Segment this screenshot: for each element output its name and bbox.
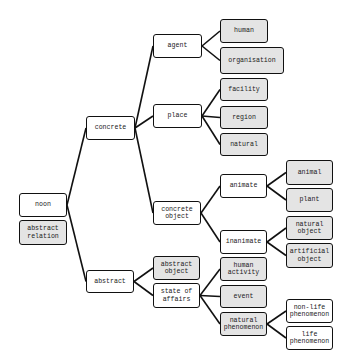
- edge-agent-organisation: [202, 46, 220, 61]
- node-facility: facility: [220, 78, 268, 101]
- node-animate: animate: [220, 174, 267, 198]
- node-life-phenomenon: life phenomenon: [286, 326, 333, 350]
- edge-agent-human: [202, 31, 220, 46]
- node-natural: natural: [220, 133, 268, 156]
- edge-animate-animal: [267, 173, 286, 187]
- node-inanimate: inanimate: [220, 230, 267, 254]
- node-animal: animal: [286, 160, 333, 185]
- edge-state_of_affairs-human_activity: [200, 269, 220, 296]
- node-event: event: [220, 285, 267, 308]
- node-organisation: organisation: [220, 47, 284, 74]
- node-artificial-object: artificial object: [286, 243, 333, 268]
- edge-animate-plant: [267, 186, 286, 200]
- node-human: human: [220, 19, 268, 43]
- node-plant: plant: [286, 188, 333, 212]
- edge-place-facility: [202, 90, 220, 117]
- edge-state_of_affairs-event: [200, 296, 220, 297]
- edge-inanimate-artificial_object: [267, 242, 286, 256]
- node-human-activity: human activity: [220, 257, 267, 281]
- node-agent: agent: [153, 34, 202, 58]
- edge-concrete-concrete_object: [135, 128, 153, 213]
- edge-noon-concrete: [67, 128, 86, 205]
- edge-place-natural: [202, 116, 220, 145]
- node-abstract-relation: abstract relation: [19, 220, 67, 245]
- node-natural-object: natural object: [286, 216, 333, 240]
- edge-concrete_object-inanimate: [201, 213, 220, 242]
- node-abstract: abstract: [86, 270, 134, 293]
- edge-concrete_object-animate: [201, 186, 220, 213]
- node-concrete-object: concrete object: [153, 201, 201, 225]
- node-region: region: [220, 106, 268, 129]
- edge-state_of_affairs-natural_phenomenon: [200, 296, 220, 325]
- edge-inanimate-natural_object: [267, 228, 286, 242]
- edge-natural_phenomenon-life_phenomenon: [267, 324, 286, 338]
- node-state-of-affairs: state of affairs: [153, 283, 200, 308]
- edge-abstract-abstract_object: [134, 268, 153, 282]
- node-non-life-phenomenon: non-life phenomenon: [286, 299, 333, 323]
- edge-abstract-state_of_affairs: [134, 282, 153, 296]
- node-natural-phenomenon: natural phenomenon: [220, 312, 267, 336]
- taxonomy-diagram: noonabstract relationconcreteabstractage…: [0, 0, 353, 364]
- edge-concrete-agent: [135, 46, 153, 128]
- node-place: place: [153, 104, 202, 128]
- node-abstract-object: abstract object: [153, 256, 200, 280]
- edge-noon-abstract: [67, 205, 86, 282]
- edge-natural_phenomenon-non_life_phenomenon: [267, 311, 286, 324]
- node-noon: noon: [19, 193, 67, 217]
- edge-place-region: [202, 116, 220, 118]
- node-concrete: concrete: [86, 116, 135, 140]
